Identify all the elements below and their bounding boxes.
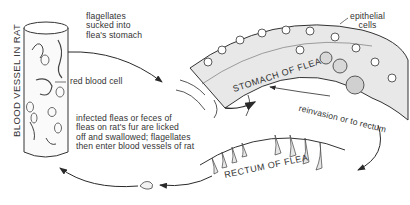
infection-route-label: infected fleas or feces of fleas on rat'… <box>76 114 194 152</box>
flagellates-label-line3: flea's stomach <box>86 31 142 40</box>
life-cycle-diagram: STOMACH OF FLEA RECTUM OF FLEA BLOOD VES… <box>0 0 410 205</box>
infection-label-line4: then enter blood vessels of rat <box>76 142 194 151</box>
epithelial-label-line2: cells <box>350 21 385 30</box>
arrow-feces <box>160 176 212 186</box>
flagellates-label: flagellates sucked into flea's stomach <box>86 12 142 40</box>
feces-icon <box>140 182 153 190</box>
diagram-drawing: STOMACH OF FLEA RECTUM OF FLEA <box>0 0 410 205</box>
epithelial-cells-label: epithelial cells <box>350 12 385 31</box>
blood-vessel-icon <box>24 22 68 157</box>
blood-vessel-label: BLOOD VESSEL IN RAT <box>11 24 22 137</box>
rectum-label: RECTUM OF FLEA <box>223 152 309 180</box>
arrow-to-vessel <box>60 168 138 187</box>
red-blood-cell-label: red blood cell <box>70 77 123 86</box>
